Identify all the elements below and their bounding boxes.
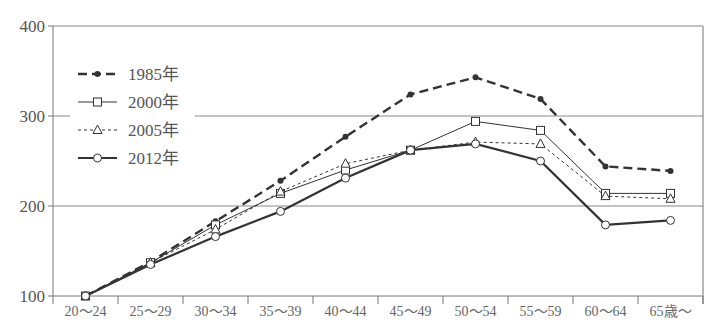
y-tick-label: 200 bbox=[20, 197, 46, 216]
x-tick-label: 45～49 bbox=[390, 304, 432, 319]
x-tick-label: 50～54 bbox=[455, 304, 497, 319]
x-tick-label: 30～34 bbox=[195, 304, 237, 319]
y-tick-label: 400 bbox=[20, 17, 46, 36]
x-tick-label: 25～29 bbox=[130, 304, 172, 319]
x-tick-label: 65歳～ bbox=[650, 304, 692, 319]
y-tick-label: 300 bbox=[20, 107, 46, 126]
x-tick-label: 40～44 bbox=[325, 304, 367, 319]
legend-label: 2012年 bbox=[128, 149, 179, 168]
x-axis-ticks: 20～2425～2930～3435～3940～4445～4950～5455～59… bbox=[53, 296, 703, 319]
line-chart: 100200300400 20～2425～2930～3435～3940～4445… bbox=[0, 0, 720, 330]
legend-label: 2005年 bbox=[128, 121, 179, 140]
y-axis-ticks: 100200300400 bbox=[20, 17, 54, 306]
y-tick-label: 100 bbox=[20, 287, 46, 306]
legend-label: 2000年 bbox=[128, 93, 179, 112]
x-tick-label: 35～39 bbox=[260, 304, 302, 319]
x-tick-label: 20～24 bbox=[65, 304, 107, 319]
legend: 1985年2000年2005年2012年 bbox=[70, 58, 195, 170]
legend-label: 1985年 bbox=[128, 65, 179, 84]
x-tick-label: 55～59 bbox=[520, 304, 562, 319]
x-tick-label: 60～64 bbox=[585, 304, 627, 319]
